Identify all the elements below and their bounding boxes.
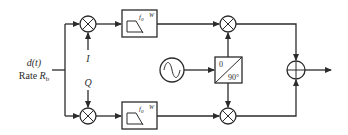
- oscillator-sine-icon: [160, 58, 184, 82]
- mixer-q-first: [80, 108, 96, 124]
- svg-text:0: 0: [219, 60, 223, 69]
- i-label: I: [85, 53, 90, 64]
- svg-text:90°: 90°: [228, 73, 239, 82]
- iq-modulator-diagram: d(t) Rate Rb I Q: [0, 0, 348, 135]
- q-label: Q: [84, 77, 92, 88]
- input-split-lines: [52, 24, 79, 116]
- mixer-q-second: [220, 108, 236, 124]
- mixer-i-first: [80, 16, 96, 32]
- top-to-summer-line: [236, 24, 296, 60]
- input-label: d(t) Rate Rb: [19, 57, 50, 83]
- bottom-to-summer-line: [236, 80, 296, 116]
- input-rate-label: Rate Rb: [19, 70, 50, 83]
- summer-icon: [287, 61, 305, 79]
- lowpass-filter-bottom: f0 W: [122, 102, 157, 129]
- mixer-i-second: [220, 16, 236, 32]
- phase-shifter-0-90: 0 90°: [215, 57, 242, 83]
- input-signal-label: d(t): [27, 57, 42, 69]
- lowpass-filter-top: f0 W: [122, 10, 157, 37]
